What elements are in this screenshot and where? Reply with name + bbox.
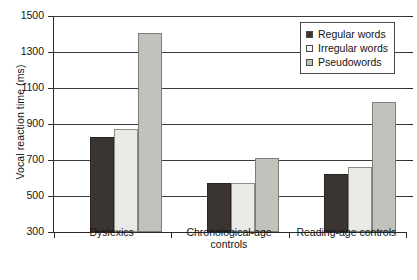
y-axis-tick — [48, 124, 54, 125]
y-axis-tick-right — [406, 52, 413, 53]
category-label-line: Reading-age controls — [288, 226, 405, 238]
legend-swatch-irregular-words — [306, 45, 313, 52]
bar-regular-1 — [207, 183, 231, 232]
bar-pseudo-1 — [255, 158, 279, 232]
category-label-line: Chronological-age — [170, 226, 287, 238]
legend-item: Pseudowords — [306, 55, 388, 69]
bar-pseudo-0 — [138, 33, 162, 232]
bar-chart-figure: Vocal reaction time (ms) 300500700900110… — [0, 0, 417, 280]
gridline — [54, 124, 406, 125]
category-label-line: Dyslexics — [53, 226, 170, 238]
category-label: Chronological-agecontrols — [170, 226, 287, 250]
y-axis-tick-right — [406, 124, 413, 125]
category-label: Dyslexics — [53, 226, 170, 238]
y-axis-tick-label: 900 — [14, 117, 44, 129]
y-axis-tick — [48, 52, 54, 53]
y-axis-tick-label: 700 — [14, 153, 44, 165]
legend-item: Regular words — [306, 27, 388, 41]
legend-item: Irregular words — [306, 41, 388, 55]
y-axis-tick-right — [406, 88, 413, 89]
y-axis-tick-label: 1300 — [14, 45, 44, 57]
y-axis-tick — [48, 16, 54, 17]
y-axis-tick-label: 500 — [14, 189, 44, 201]
category-label-line: controls — [170, 238, 287, 250]
legend-label-regular-words: Regular words — [318, 28, 386, 40]
category-label: Reading-age controls — [288, 226, 405, 238]
gridline — [54, 16, 406, 17]
bar-regular-0 — [90, 137, 114, 232]
x-axis-tick — [406, 232, 407, 238]
y-axis-tick — [48, 88, 54, 89]
legend-swatch-regular-words — [306, 31, 313, 38]
y-axis-tick-right — [406, 160, 413, 161]
legend: Regular words Irregular words Pseudoword… — [300, 22, 395, 74]
y-axis-tick-label: 1500 — [14, 9, 44, 21]
y-axis-tick-right — [406, 196, 413, 197]
y-axis-tick — [48, 196, 54, 197]
bar-irregular-1 — [231, 183, 255, 232]
legend-swatch-pseudowords — [306, 59, 313, 66]
y-axis-tick-label: 300 — [14, 225, 44, 237]
legend-label-pseudowords: Pseudowords — [318, 56, 382, 68]
y-axis-tick — [48, 160, 54, 161]
bar-pseudo-2 — [372, 102, 396, 232]
legend-label-irregular-words: Irregular words — [318, 42, 388, 54]
bar-irregular-0 — [114, 129, 138, 233]
y-axis-tick-label: 1100 — [14, 81, 44, 93]
bar-irregular-2 — [348, 167, 372, 232]
y-axis-tick-right — [406, 16, 413, 17]
gridline — [54, 88, 406, 89]
bar-regular-2 — [324, 174, 348, 232]
